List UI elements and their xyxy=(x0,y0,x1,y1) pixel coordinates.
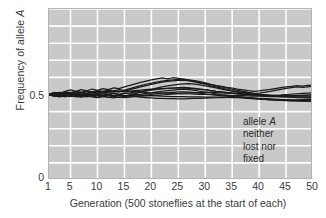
x-axis-tick-15: 15 xyxy=(118,180,130,192)
y-axis-label-allele-symbol: A xyxy=(14,10,26,17)
y-axis-tick-0: 0 xyxy=(22,171,44,183)
annotation-line-1-text: allele xyxy=(243,116,269,127)
x-axis-tick-40: 40 xyxy=(252,180,264,192)
x-axis-label: Generation (500 stoneflies at the start … xyxy=(30,197,326,209)
x-axis-tick-30: 30 xyxy=(198,180,210,192)
x-axis-tick-45: 45 xyxy=(279,180,291,192)
annotation-line-2: neither xyxy=(243,128,276,140)
annotation-line-4: fixed xyxy=(243,153,276,165)
x-axis-tick-1: 1 xyxy=(45,180,51,192)
x-axis-tick-35: 35 xyxy=(225,180,237,192)
annotation-line-1: allele A xyxy=(243,116,276,128)
annotation-line-3: lost nor xyxy=(243,141,276,153)
y-axis-label: Frequency of allele A xyxy=(14,0,26,134)
x-axis-tick-20: 20 xyxy=(145,180,157,192)
annotation-allele-not-lost: allele A neither lost nor fixed xyxy=(243,116,276,166)
x-axis-ticks: 15101520253035404550 xyxy=(48,180,312,196)
x-axis-tick-25: 25 xyxy=(171,180,183,192)
x-axis-tick-50: 50 xyxy=(306,180,318,192)
annotation-allele-symbol: A xyxy=(269,116,276,127)
y-axis-tick-0.5: 0.5 xyxy=(22,89,44,101)
x-axis-tick-5: 5 xyxy=(67,180,73,192)
x-axis-tick-10: 10 xyxy=(91,180,103,192)
genetic-drift-line-chart: Frequency of allele A 0.5 0 151015202530… xyxy=(0,0,326,218)
